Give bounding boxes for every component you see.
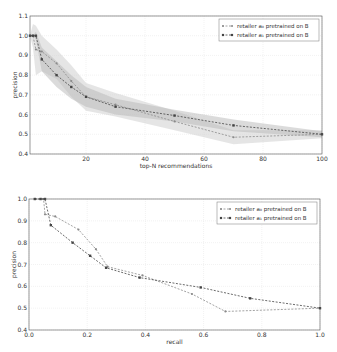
data-point: [41, 50, 43, 52]
y-tick-label: 0.9: [18, 51, 28, 58]
legend-entry-label: retailer a₀ pretrained on B: [235, 206, 307, 213]
data-point: [249, 297, 251, 299]
x-axis-label: top-N recommendations: [140, 162, 213, 170]
data-point: [114, 104, 116, 106]
x-tick-label: 20: [82, 155, 90, 162]
x-tick-label: 0.6: [199, 331, 209, 338]
legend-marker-icon: [222, 34, 224, 36]
y-tick-label: 0.6: [18, 111, 28, 118]
y-tick-label: 0.5: [17, 304, 27, 311]
legend-entry-label: retailer a₁ pretrained on B: [237, 32, 309, 39]
data-point: [232, 124, 234, 126]
y-tick-label: 0.7: [18, 91, 28, 98]
x-tick-label: 100: [316, 155, 328, 162]
y-tick-label: 1.1: [18, 12, 28, 19]
y-tick-label: 0.4: [17, 326, 27, 333]
data-point: [71, 241, 73, 243]
precision-recall-chart: 0.00.20.40.60.81.00.40.50.60.70.80.91.0r…: [0, 180, 337, 352]
data-point: [138, 276, 140, 278]
y-tick-label: 0.6: [17, 282, 27, 289]
legend-marker-icon: [220, 217, 222, 219]
legend: retailer a₀ pretrained on Bretailer a₁ p…: [219, 19, 319, 41]
y-tick-label: 1.0: [17, 195, 27, 202]
data-point: [77, 228, 79, 230]
confidence-band: [30, 32, 322, 137]
x-tick-label: 0.8: [257, 331, 267, 338]
data-point: [95, 248, 97, 250]
x-tick-label: 1.0: [315, 331, 325, 338]
data-point: [173, 120, 175, 122]
x-tick-label: 40: [141, 155, 149, 162]
data-point: [35, 35, 37, 37]
x-axis-label: recall: [166, 338, 183, 345]
data-point: [55, 62, 57, 64]
y-axis-label: precision: [11, 71, 19, 98]
data-point: [32, 35, 34, 37]
x-tick-label: 60: [200, 155, 208, 162]
legend-marker-icon: [222, 25, 224, 27]
data-point: [191, 293, 193, 295]
y-axis-label: precision: [10, 251, 18, 278]
y-tick-label: 0.8: [17, 239, 27, 246]
x-tick-label: 80: [259, 155, 267, 162]
x-tick-label: 0.4: [141, 331, 151, 338]
data-point: [55, 74, 57, 76]
data-point: [105, 267, 107, 269]
y-tick-label: 0.5: [18, 130, 28, 137]
data-point: [173, 114, 175, 116]
x-tick-label: 0.2: [82, 331, 92, 338]
data-point: [35, 48, 37, 50]
data-point: [199, 286, 201, 288]
data-point: [232, 136, 234, 138]
data-point: [44, 213, 46, 215]
legend-marker-icon: [229, 208, 231, 210]
y-tick-label: 0.7: [17, 261, 27, 268]
legend-entry-label: retailer a₁ pretrained on B: [235, 215, 307, 222]
y-tick-label: 1.0: [18, 32, 28, 39]
legend-marker-icon: [229, 217, 231, 219]
data-point: [141, 274, 143, 276]
legend-entry-label: retailer a₀ pretrained on B: [237, 23, 309, 30]
precision-vs-topn-chart: 204060801000.40.50.60.70.80.91.01.1top-N…: [0, 0, 337, 180]
legend-marker-icon: [231, 34, 233, 36]
data-point: [70, 86, 72, 88]
data-point: [41, 58, 43, 60]
data-point: [54, 215, 56, 217]
data-point: [85, 96, 87, 98]
data-point: [70, 80, 72, 82]
data-point: [224, 310, 226, 312]
legend-marker-icon: [220, 208, 222, 210]
data-point: [89, 255, 91, 257]
y-tick-label: 0.9: [17, 217, 27, 224]
legend: retailer a₀ pretrained on Bretailer a₁ p…: [217, 202, 317, 224]
y-tick-label: 0.4: [18, 150, 28, 157]
data-point: [114, 105, 116, 107]
y-tick-label: 0.8: [18, 71, 28, 78]
legend-marker-icon: [231, 25, 233, 27]
data-point: [50, 224, 52, 226]
